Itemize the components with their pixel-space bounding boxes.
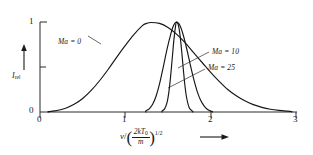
y-axis-label: Irel <box>12 72 20 81</box>
y-axis-label-sub: rel <box>15 74 21 80</box>
x-label-numerator: 2kT0 <box>133 128 149 137</box>
x-label-denominator: m <box>132 137 150 146</box>
x-label-fraction: 2kT0m <box>133 128 149 146</box>
x-tick-label-1: 1 <box>122 115 127 124</box>
x-axis-arrow-head <box>222 134 230 140</box>
x-tick-label-3: 3 <box>293 115 298 124</box>
x-axis-label: v/(2kT0m)1/2 <box>120 128 163 146</box>
x-tick-label-0: 0 <box>37 115 42 124</box>
x-tick-label-2: 2 <box>208 115 213 124</box>
leader-ma-25 <box>168 69 205 88</box>
velocity-distribution-chart: 1 0 0 1 2 3 Irel v/(2kT0m)1/2 Ma = 0 Ma … <box>0 0 313 155</box>
y-tick-label-1: 1 <box>29 17 34 26</box>
y-tick-label-0: 0 <box>29 106 34 115</box>
y-axis-arrow-head <box>21 44 27 51</box>
curve-label-ma-0: Ma = 0 <box>58 38 81 46</box>
curve-label-ma-25: Ma = 25 <box>208 64 235 72</box>
x-label-exponent: 1/2 <box>155 130 163 136</box>
leader-ma-0 <box>88 36 101 44</box>
curve-label-ma-10: Ma = 10 <box>212 48 239 56</box>
